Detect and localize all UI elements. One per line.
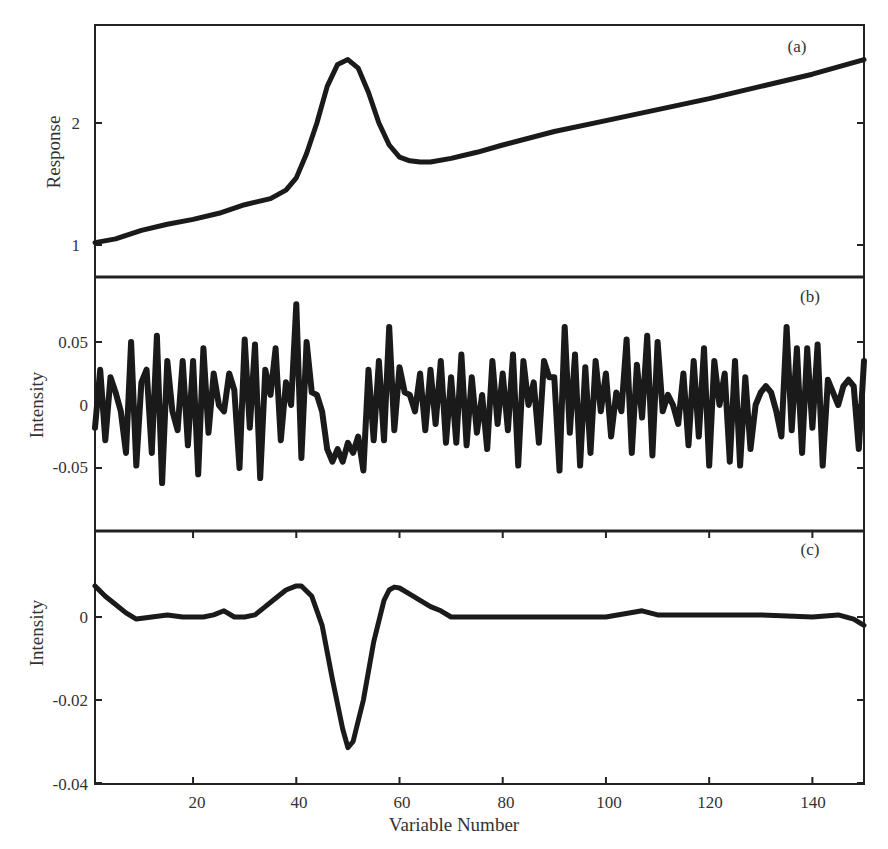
panel-c: 0 -0.02 -0.04 Intensity (c)	[26, 540, 864, 794]
panel-c-ytick-0: 0	[80, 608, 89, 627]
panel-b-label: (b)	[800, 287, 820, 306]
panel-a-y-axis-label: Response	[43, 116, 64, 189]
xtick-140: 140	[800, 793, 826, 812]
xtick-40: 40	[291, 793, 308, 812]
panel-a-label: (a)	[788, 37, 807, 56]
panel-a-ytick-1: 1	[72, 236, 81, 255]
xtick-60: 60	[394, 793, 411, 812]
xtick-80: 80	[498, 793, 515, 812]
panel-b-y-axis-label: Intensity	[26, 371, 47, 438]
x-axis-label: Variable Number	[389, 814, 520, 835]
panel-b-ytick-0.05: 0.05	[58, 333, 88, 352]
panel-b-ytick-neg0.05: -0.05	[53, 458, 88, 477]
panel-c-y-axis-label: Intensity	[26, 599, 47, 666]
panel-b: 0.05 0 -0.05 Intensity (b)	[26, 287, 864, 483]
stacked-line-chart: 2 1 Response (a) 0.05 0 -0.05 Intensity …	[0, 0, 888, 849]
xtick-20: 20	[189, 793, 206, 812]
x-axis-ticks	[193, 531, 812, 784]
panel-c-label: (c)	[801, 540, 820, 559]
panel-c-ytick-neg0.02: -0.02	[53, 691, 88, 710]
panel-a-response-line	[95, 60, 864, 243]
x-axis: 20 40 60 80 100 120 140 Variable Number	[189, 531, 826, 835]
xtick-100: 100	[596, 793, 622, 812]
panel-a-y-ticks	[95, 123, 864, 245]
panel-c-intensity-line	[95, 586, 864, 748]
panel-b-ytick-0: 0	[80, 396, 89, 415]
panel-a-ytick-2: 2	[72, 114, 81, 133]
panel-a: 2 1 Response (a)	[43, 37, 864, 255]
panel-c-y-ticks	[95, 617, 864, 783]
xtick-120: 120	[697, 793, 723, 812]
panel-b-intensity-line	[95, 304, 864, 483]
panel-c-ytick-neg0.04: -0.04	[53, 775, 89, 794]
